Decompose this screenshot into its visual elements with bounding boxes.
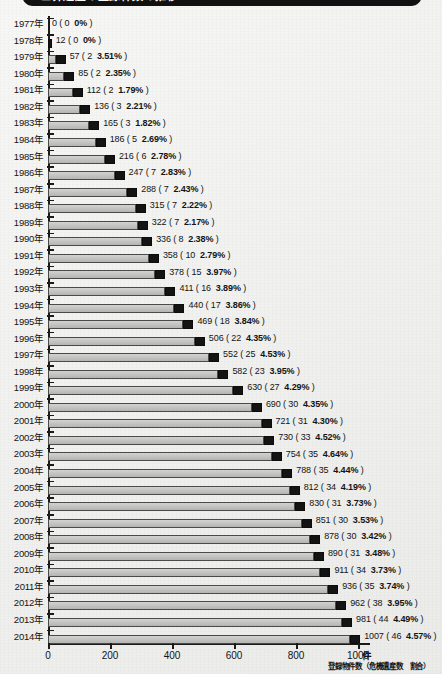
bar-total: [48, 188, 127, 197]
y-axis-label: 1990年: [2, 234, 44, 244]
bar-tip-danger: [320, 568, 330, 577]
bar-value-label: 582 ( 23 3.95% ): [232, 367, 299, 376]
bar-total: [48, 618, 342, 627]
bar-tip-danger: [89, 121, 99, 130]
chart-row: 2011年936 ( 35 3.74% ): [48, 579, 358, 596]
y-axis-label: 1984年: [2, 135, 44, 145]
bar-value-label: 690 ( 30 4.35% ): [266, 400, 333, 409]
y-axis-tick: [47, 249, 54, 251]
chart-row: 1998年582 ( 23 3.95% ): [48, 364, 358, 381]
chart-row: 2014年1007 ( 46 4.57% ): [48, 628, 358, 645]
bar-tip-danger: [136, 204, 146, 213]
chart-row: 1991年358 ( 10 2.79% ): [48, 248, 358, 265]
y-axis-label: 2005年: [2, 483, 44, 493]
y-axis-tick: [47, 282, 54, 284]
y-axis-label: 1991年: [2, 251, 44, 261]
x-axis-tick: [172, 643, 174, 649]
bar-tip-danger: [218, 370, 228, 379]
bar-total: [48, 287, 165, 296]
bar-total: [48, 138, 96, 147]
y-axis-tick: [47, 464, 54, 466]
y-axis-tick: [47, 100, 54, 102]
bar-value-label: 721 ( 31 4.30% ): [276, 417, 343, 426]
y-axis-label: 1981年: [2, 85, 44, 95]
bar-value-label: 812 ( 34 4.19% ): [304, 483, 371, 492]
y-axis-tick: [47, 580, 54, 582]
y-axis-tick: [47, 34, 54, 36]
chart-row: 1980年85 ( 2 2.35% ): [48, 66, 358, 83]
bar-tip-danger: [183, 320, 193, 329]
bar-total: [48, 502, 295, 511]
bar-tip-danger: [295, 502, 305, 511]
bar-total: [48, 535, 310, 544]
chart-row: 1990年336 ( 8 2.38% ): [48, 231, 358, 248]
bar-value-label: 830 ( 31 3.73% ): [309, 499, 376, 508]
y-axis-label: 2014年: [2, 632, 44, 642]
y-axis-tick: [47, 597, 54, 599]
bar-tip-danger: [262, 419, 272, 428]
y-axis-label: 2012年: [2, 598, 44, 608]
bar-tip-danger: [64, 72, 74, 81]
y-axis-tick: [47, 332, 54, 334]
bar-tip-danger: [115, 171, 125, 180]
y-axis-label: 2011年: [2, 582, 44, 592]
chart-row: 1994年440 ( 17 3.86% ): [48, 297, 358, 314]
bar-tip-danger: [314, 552, 324, 561]
bar-value-label: 378 ( 15 3.97% ): [169, 268, 236, 277]
chart-row: 1993年411 ( 16 3.89% ): [48, 281, 358, 298]
y-axis-label: 1986年: [2, 168, 44, 178]
bar-tip-danger: [328, 585, 338, 594]
bar-tip-danger: [233, 386, 243, 395]
plot-area: 1977年0 ( 0 0% )1978年12 ( 0 0% )1979年57 (…: [48, 16, 358, 643]
y-axis-label: 2010年: [2, 565, 44, 575]
chart-row: 2013年981 ( 44 4.49% ): [48, 612, 358, 629]
bar-tip-danger: [195, 337, 205, 346]
bar-tip-danger: [149, 254, 159, 263]
bar-total: [48, 568, 320, 577]
chart-row: 1989年322 ( 7 2.17% ): [48, 215, 358, 232]
bar-value-label: 754 ( 35 4.64% ): [286, 450, 353, 459]
y-axis-tick: [47, 150, 54, 152]
chart-row: 2002年730 ( 33 4.52% ): [48, 430, 358, 447]
bar-tip-danger: [48, 39, 52, 48]
y-axis-tick: [47, 51, 54, 53]
bar-total: [48, 519, 302, 528]
y-axis-label: 2009年: [2, 549, 44, 559]
y-axis-tick: [47, 382, 54, 384]
bar-value-label: 911 ( 34 3.73% ): [334, 566, 401, 575]
chart-row: 1988年315 ( 7 2.22% ): [48, 198, 358, 215]
chart-row: 2004年788 ( 35 4.44% ): [48, 463, 358, 480]
y-axis-label: 2003年: [2, 449, 44, 459]
chart-row: 1987年288 ( 7 2.43% ): [48, 182, 358, 199]
x-axis-tick-label: 400: [164, 651, 181, 661]
y-axis-label: 1989年: [2, 218, 44, 228]
chart-row: 1984年186 ( 5 2.69% ): [48, 132, 358, 149]
bar-tip-danger: [310, 535, 320, 544]
bar-total: [48, 403, 252, 412]
chart-row: 2006年830 ( 31 3.73% ): [48, 496, 358, 513]
x-axis-tick-label: 600: [226, 651, 243, 661]
y-axis-label: 2008年: [2, 532, 44, 542]
bar-tip-danger: [252, 403, 262, 412]
y-axis-label: 1995年: [2, 317, 44, 327]
y-axis-label: 1993年: [2, 284, 44, 294]
bar-total: [48, 155, 105, 164]
y-axis-tick: [47, 630, 54, 632]
y-axis-label: 1980年: [2, 69, 44, 79]
y-axis-label: 1992年: [2, 267, 44, 277]
y-axis-tick: [47, 183, 54, 185]
bar-tip-danger: [174, 304, 184, 313]
bar-value-label: 730 ( 33 4.52% ): [278, 433, 345, 442]
bar-total: [48, 270, 155, 279]
bar-total: [48, 88, 73, 97]
chart-row: 2010年911 ( 34 3.73% ): [48, 562, 358, 579]
bar-value-label: 165 ( 3 1.82% ): [103, 119, 165, 128]
chart-row: 1978年12 ( 0 0% ): [48, 33, 358, 50]
chart-row: 1999年630 ( 27 4.29% ): [48, 380, 358, 397]
bar-total: [48, 105, 80, 114]
bar-tip-danger: [105, 155, 115, 164]
chart-row: 1979年57 ( 2 3.51% ): [48, 49, 358, 66]
bar-value-label: 247 ( 7 2.83% ): [129, 168, 191, 177]
bar-value-label: 878 ( 30 3.42% ): [324, 532, 391, 541]
bar-value-label: 315 ( 7 2.22% ): [150, 201, 212, 210]
